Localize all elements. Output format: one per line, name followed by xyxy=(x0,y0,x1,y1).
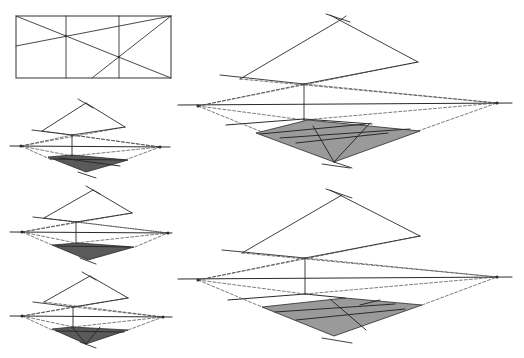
construction-line xyxy=(222,250,305,258)
vanishing-point-right xyxy=(496,102,499,105)
construction-dashed-line xyxy=(72,147,160,156)
horizon-line xyxy=(178,277,512,279)
construction-line xyxy=(42,103,86,131)
vanishing-point-right xyxy=(159,146,162,149)
frame-diagonal-line xyxy=(92,16,171,78)
perspective-diagram-large-top xyxy=(178,14,512,168)
construction-line xyxy=(242,195,342,253)
construction-line xyxy=(33,217,76,222)
horizon-line xyxy=(10,316,172,317)
shaded-ground-plane xyxy=(52,243,134,260)
vanishing-point-left xyxy=(197,105,200,108)
intersection-point xyxy=(65,35,67,37)
vanishing-point-left xyxy=(20,145,23,148)
frame-diagonal-line xyxy=(16,16,171,46)
drawing-canvas xyxy=(0,0,524,358)
construction-line xyxy=(72,127,125,135)
vanishing-point-left xyxy=(21,231,24,234)
construction-line xyxy=(304,62,418,84)
construction-dashed-line xyxy=(21,146,52,160)
shaded-ground-plane xyxy=(52,327,128,344)
construction-dashed-line xyxy=(418,103,497,131)
top-cross-line xyxy=(326,14,350,22)
top-cross-line xyxy=(342,16,346,19)
perspective-diagram-large-bottom xyxy=(178,189,512,343)
bottom-cross-line xyxy=(322,338,352,343)
grid-line xyxy=(228,294,305,300)
top-cross-line xyxy=(82,272,96,280)
horizon-line xyxy=(10,146,170,147)
construction-line xyxy=(90,276,128,298)
construction-line xyxy=(86,103,125,127)
construction-line xyxy=(330,15,418,62)
construction-line xyxy=(73,298,128,307)
construction-dashed-line xyxy=(22,316,73,327)
construction-line xyxy=(44,190,93,218)
horizon-line xyxy=(178,103,512,105)
construction-line xyxy=(330,190,420,236)
construction-dashed-line xyxy=(304,84,497,103)
construction-dashed-line xyxy=(21,127,125,146)
intersection-point xyxy=(118,56,120,58)
construction-line xyxy=(240,19,342,79)
construction-dashed-line xyxy=(242,253,497,277)
construction-dashed-line xyxy=(21,146,72,156)
construction-line xyxy=(76,213,132,222)
grid-line xyxy=(305,294,345,298)
shaded-ground-plane xyxy=(262,298,422,336)
vanishing-point-left xyxy=(197,279,200,282)
bottom-cross-line xyxy=(78,172,96,178)
construction-dashed-line xyxy=(422,277,497,305)
construction-dashed-line xyxy=(76,233,168,243)
construction-dashed-line xyxy=(240,79,497,103)
construction-dashed-line xyxy=(22,232,52,245)
vanishing-point-right xyxy=(162,316,165,319)
perspective-diagram-small-2 xyxy=(10,186,172,264)
vanishing-point-left xyxy=(21,315,24,318)
construction-dashed-line xyxy=(305,277,497,294)
construction-dashed-line xyxy=(22,232,76,243)
horizon-line xyxy=(10,232,172,233)
perspective-diagrams xyxy=(10,14,512,348)
construction-line xyxy=(305,236,420,258)
perspective-diagram-small-3 xyxy=(10,272,172,348)
vanishing-point-right xyxy=(496,276,499,279)
frame-diagram xyxy=(16,16,171,78)
construction-dashed-line xyxy=(304,103,497,120)
vanishing-point-right xyxy=(167,232,170,235)
perspective-figures xyxy=(0,0,524,358)
construction-line xyxy=(32,130,72,135)
construction-line xyxy=(44,276,90,302)
frame-diagonal-line xyxy=(16,16,171,78)
construction-line xyxy=(220,75,304,84)
construction-dashed-line xyxy=(198,106,304,120)
construction-line xyxy=(33,302,73,307)
perspective-diagram-small-1 xyxy=(10,99,170,178)
construction-dashed-line xyxy=(22,316,52,330)
